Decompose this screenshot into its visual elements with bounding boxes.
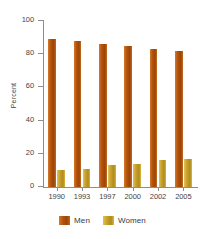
x-tick-mark: [133, 188, 134, 191]
x-tick-label: 2000: [120, 192, 146, 201]
x-tick-mark: [107, 188, 108, 191]
bar-men-1997: [99, 44, 107, 187]
bar-group: [95, 21, 120, 187]
legend-item-men[interactable]: Men: [59, 216, 90, 225]
y-tick-label: 40: [0, 115, 34, 124]
bar-group: [120, 21, 145, 187]
x-tick-label: 1993: [69, 192, 95, 201]
x-axis-line: [43, 187, 198, 188]
legend-label-women: Women: [118, 216, 146, 225]
bar-women-2002: [159, 160, 167, 187]
bar-men-2000: [124, 46, 132, 187]
bar-groups: [44, 21, 196, 187]
x-tick-label: 2002: [145, 192, 171, 201]
x-tick-mark: [183, 188, 184, 191]
y-tick-label: 60: [0, 81, 34, 90]
legend-swatch-men: [59, 216, 70, 225]
bar-men-1993: [74, 41, 82, 187]
y-tick-label: 20: [0, 148, 34, 157]
x-tick-label: 1997: [94, 192, 120, 201]
y-tick-label: 80: [0, 48, 34, 57]
bar-women-2005: [184, 159, 192, 187]
x-tick-mark: [82, 188, 83, 191]
legend-item-women[interactable]: Women: [103, 216, 146, 225]
bar-women-2000: [133, 164, 141, 187]
bar-men-2002: [150, 49, 158, 187]
bar-group: [145, 21, 170, 187]
legend-label-men: Men: [74, 216, 90, 225]
x-tick-mark: [57, 188, 58, 191]
x-tick-label: 2005: [170, 192, 196, 201]
x-tick-label: 1990: [44, 192, 70, 201]
bar-women-1997: [108, 165, 116, 187]
bar-women-1993: [83, 169, 91, 187]
y-tick-label: 0: [0, 181, 34, 190]
bar-chart: Percent 020406080100 1990199319972000200…: [0, 0, 205, 239]
bar-group: [69, 21, 94, 187]
bar-men-2005: [175, 51, 183, 187]
bar-group: [44, 21, 69, 187]
x-tick-mark: [158, 188, 159, 191]
chart-legend: MenWomen: [0, 216, 205, 225]
bar-group: [171, 21, 196, 187]
bar-women-1990: [57, 170, 65, 187]
bar-men-1990: [48, 39, 56, 187]
y-tick-label: 100: [0, 15, 34, 24]
legend-swatch-women: [103, 216, 114, 225]
